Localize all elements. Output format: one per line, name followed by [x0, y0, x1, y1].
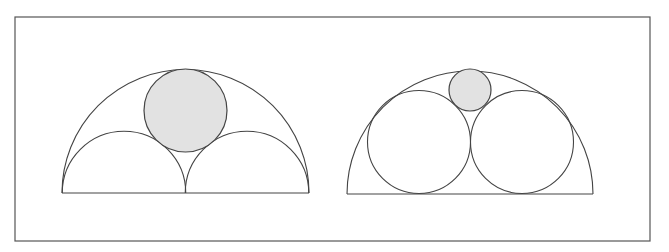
left-figure: [62, 69, 309, 193]
diagram-canvas: [0, 0, 669, 252]
inner-circle: [368, 91, 471, 194]
inner-circle: [471, 91, 574, 194]
shaded-circle: [449, 69, 491, 111]
right-figure: [347, 69, 593, 194]
shaded-circle: [144, 69, 227, 152]
diagram-frame: [15, 17, 650, 241]
